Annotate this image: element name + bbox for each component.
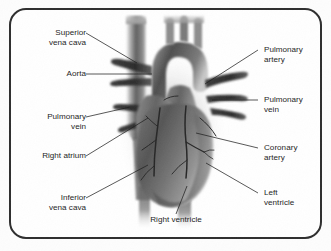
label-pulmonary-artery: Pulmonary artery [264,45,326,65]
label-inferior-vena-cava: Inferior vena cava [18,193,86,213]
label-right-ventricle: Right ventricle [124,215,228,225]
heart-diagram-figure: Superior vena cava Aorta Pulmonary vein … [0,0,331,251]
label-pulmonary-vein-left: Pulmonary vein [14,112,86,132]
label-right-atrium: Right atrium [8,151,86,161]
label-left-ventricle: Left ventricle [264,188,326,208]
label-aorta: Aorta [18,69,86,79]
label-superior-vena-cava: Superior vena cava [18,28,86,48]
label-coronary-artery: Coronary artery [264,143,326,163]
label-pulmonary-vein-right: Pulmonary vein [264,95,326,115]
